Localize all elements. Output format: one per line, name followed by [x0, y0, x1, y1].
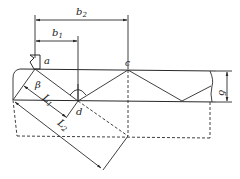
label-b2: b2 — [76, 6, 87, 19]
label-delta: δ — [217, 90, 228, 96]
extension-L2 — [103, 136, 128, 170]
label-a: a — [44, 55, 50, 66]
label-d: d — [76, 106, 82, 117]
beam-entry-reflection — [13, 69, 35, 100]
dashed-bottom — [17, 136, 210, 138]
dimension-L2 — [15, 102, 101, 168]
label-c: c — [125, 58, 130, 68]
plate-top-surface — [20, 69, 216, 71]
beam-zigzag-path — [35, 69, 211, 101]
ultrasonic-weld-inspection-diagram: b2 b1 a c d β L1 L2 δ — [0, 0, 240, 179]
dashed-beam-reflection — [78, 101, 128, 136]
dashed-left-edge — [13, 100, 17, 136]
label-b1: b1 — [52, 27, 63, 40]
label-L2: L2 — [54, 116, 72, 134]
label-beta: β — [34, 79, 41, 90]
